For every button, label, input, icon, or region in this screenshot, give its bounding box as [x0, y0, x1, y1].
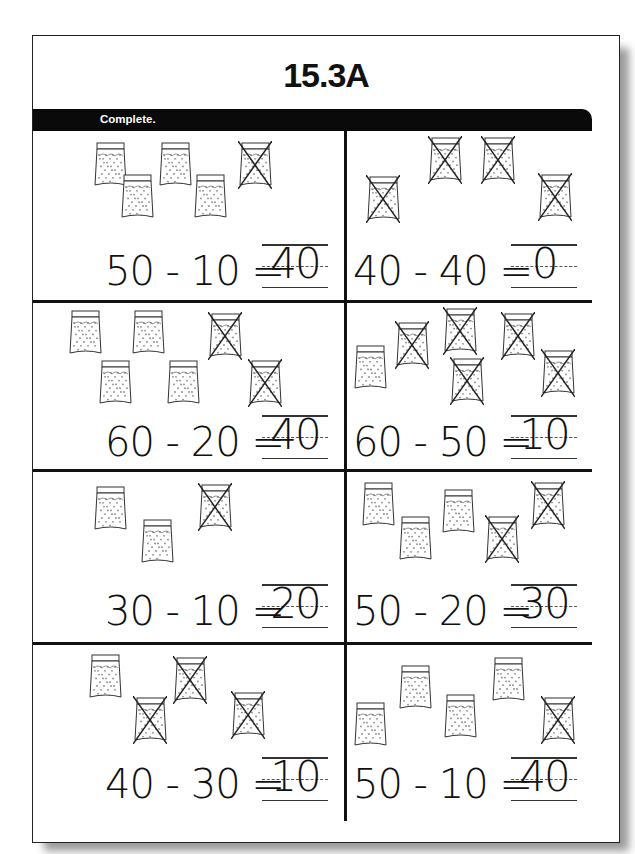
problem-cell: 40 - 40 =0 — [353, 133, 603, 298]
equation-text: 50 - 20 = — [353, 588, 532, 634]
crossed-bag-icon — [395, 321, 429, 369]
problem-cell: 60 - 50 =10 — [353, 304, 603, 469]
answer-value: 40 — [262, 411, 328, 459]
crossed-bag-icon — [366, 175, 400, 223]
crossed-bag-icon — [248, 359, 282, 407]
bag-of-ten-icon — [193, 173, 227, 221]
equation-text: 50 - 10 = — [353, 761, 532, 807]
bag-of-ten-icon — [68, 309, 102, 357]
crossed-bag-icon — [443, 307, 477, 355]
bag-of-ten-icon — [441, 488, 475, 536]
answer-box[interactable]: 40 — [511, 757, 577, 801]
bag-of-ten-icon — [166, 359, 200, 407]
answer-value: 40 — [262, 240, 328, 288]
answer-box[interactable]: 10 — [262, 757, 328, 801]
crossed-bag-icon — [531, 481, 565, 529]
problem-cell: 50 - 10 =40 — [53, 133, 303, 298]
crossed-bag-icon — [173, 656, 207, 704]
bag-of-ten-icon — [398, 515, 432, 563]
row-divider — [33, 469, 592, 472]
column-divider — [344, 131, 347, 821]
crossed-bag-icon — [538, 173, 572, 221]
crossed-bag-icon — [133, 696, 167, 744]
answer-value: 10 — [262, 753, 328, 801]
bag-of-ten-icon — [443, 693, 477, 741]
crossed-bag-icon — [231, 691, 265, 739]
crossed-bag-icon — [208, 312, 242, 360]
bag-of-ten-icon — [131, 309, 165, 357]
equation-text: 60 - 50 = — [353, 419, 532, 465]
crossed-bag-icon — [501, 312, 535, 360]
answer-box[interactable]: 40 — [262, 415, 328, 459]
crossed-bag-icon — [198, 483, 232, 531]
bag-of-ten-icon — [93, 485, 127, 533]
crossed-bag-icon — [481, 136, 515, 184]
instruction-text: Complete. — [100, 113, 156, 125]
equation-text: 30 - 10 = — [105, 588, 284, 634]
bag-of-ten-icon — [491, 656, 525, 704]
problem-cell: 60 - 20 =40 — [53, 304, 303, 469]
problem-cell: 50 - 10 =40 — [353, 646, 603, 811]
answer-value: 40 — [511, 753, 577, 801]
problem-cell: 30 - 10 =20 — [53, 473, 303, 638]
crossed-bag-icon — [541, 696, 575, 744]
problem-cell: 40 - 30 =10 — [53, 646, 303, 811]
answer-box[interactable]: 10 — [511, 415, 577, 459]
answer-value: 0 — [511, 240, 577, 288]
answer-value: 10 — [511, 411, 577, 459]
answer-value: 20 — [262, 580, 328, 628]
bag-of-ten-icon — [361, 481, 395, 529]
bag-of-ten-icon — [158, 141, 192, 189]
crossed-bag-icon — [450, 357, 484, 405]
equation-text: 50 - 10 = — [105, 248, 284, 294]
equation-text: 40 - 40 = — [353, 248, 532, 294]
crossed-bag-icon — [485, 515, 519, 563]
problem-cell: 50 - 20 =30 — [353, 473, 603, 638]
bag-of-ten-icon — [88, 653, 122, 701]
equation-text: 60 - 20 = — [105, 419, 284, 465]
bag-of-ten-icon — [353, 701, 387, 749]
answer-box[interactable]: 30 — [511, 584, 577, 628]
bag-of-ten-icon — [353, 344, 387, 392]
crossed-bag-icon — [541, 349, 575, 397]
worksheet-page: 15.3A Complete. 50 - 10 =40 — [32, 35, 620, 843]
answer-value: 30 — [511, 580, 577, 628]
row-divider — [33, 642, 592, 645]
worksheet-title: 15.3A — [33, 56, 619, 95]
crossed-bag-icon — [428, 136, 462, 184]
crossed-bag-icon — [238, 141, 272, 189]
answer-box[interactable]: 20 — [262, 584, 328, 628]
answer-box[interactable]: 0 — [511, 244, 577, 288]
bag-of-ten-icon — [98, 359, 132, 407]
row-divider — [33, 300, 592, 303]
bag-of-ten-icon — [398, 664, 432, 712]
instruction-bar: Complete. — [33, 109, 592, 131]
answer-box[interactable]: 40 — [262, 244, 328, 288]
bag-of-ten-icon — [140, 518, 174, 566]
bag-of-ten-icon — [120, 173, 154, 221]
equation-text: 40 - 30 = — [105, 761, 284, 807]
